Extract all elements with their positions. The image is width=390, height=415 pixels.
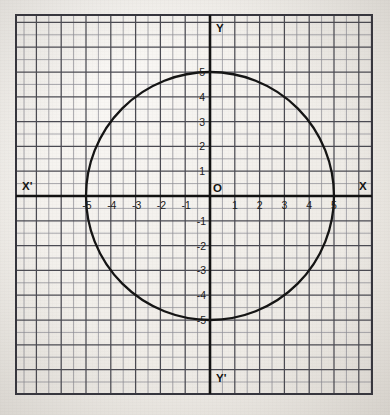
tick-label: -5 — [82, 199, 91, 211]
tick-label: 5 — [331, 199, 337, 211]
tick-label: 1 — [199, 165, 205, 177]
tick-label: 2 — [257, 199, 263, 211]
tick-label: -1 — [197, 215, 206, 227]
tick-label: 5 — [199, 66, 205, 78]
tick-label: 3 — [281, 199, 287, 211]
tick-label: 1 — [232, 199, 238, 211]
x-positive-axis-label: X — [359, 180, 367, 192]
y-positive-axis-label: Y — [216, 22, 224, 34]
tick-label: -2 — [157, 199, 166, 211]
tick-label: -3 — [197, 264, 206, 276]
tick-label: -4 — [197, 289, 206, 301]
tick-label: -2 — [197, 240, 206, 252]
tick-label: -5 — [197, 314, 206, 326]
tick-label: 4 — [199, 91, 205, 103]
tick-label: 2 — [199, 140, 205, 152]
tick-label: -3 — [132, 199, 141, 211]
y-negative-axis-label: Y' — [216, 372, 227, 384]
tick-label: 4 — [306, 199, 312, 211]
origin-label: O — [213, 182, 222, 194]
tick-label: 3 — [199, 116, 205, 128]
coordinate-plane-figure: X' X Y Y' O -5-4-3-2-11234512345-1-2-3-4… — [0, 0, 390, 415]
tick-label: -1 — [182, 199, 191, 211]
tick-label: -4 — [107, 199, 116, 211]
x-negative-axis-label: X' — [22, 180, 33, 192]
